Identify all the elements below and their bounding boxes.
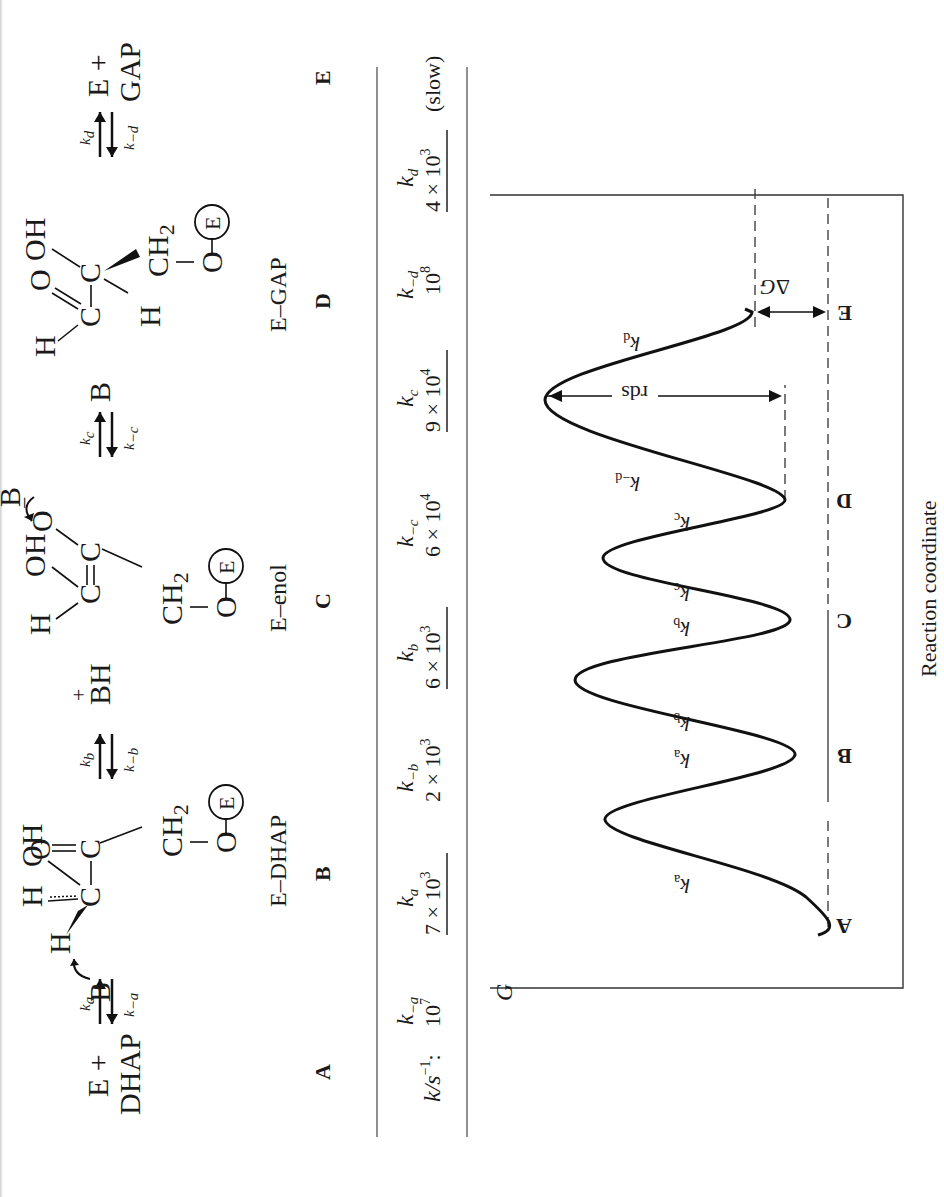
svg-text:9 × 104: 9 × 104: [418, 369, 445, 432]
wedge-bond: [66, 905, 88, 935]
svg-text:k−d: k−d: [615, 470, 640, 497]
arrow-head-icon: [94, 734, 106, 744]
curve-state-a: A: [836, 914, 852, 939]
atom-h: H: [23, 613, 56, 635]
equilibrium-arrow-d: kd k−d: [77, 112, 141, 157]
atom-o: O: [209, 596, 242, 618]
svg-text:k−a: k−a: [392, 997, 421, 1025]
curve-state-c: C: [836, 609, 852, 634]
atom-h: H: [133, 305, 166, 327]
atom-c: C: [73, 887, 106, 907]
svg-text:4 × 103: 4 × 103: [418, 149, 445, 212]
arrow-head-icon: [94, 412, 106, 422]
base-b: B: [83, 982, 116, 1002]
wedge-bond: [104, 249, 140, 271]
enzyme-label: E: [214, 797, 239, 810]
svg-text:k−d: k−d: [121, 125, 141, 150]
base-b: B: [83, 382, 116, 402]
energy-diagram: G Reaction coordinate rds: [490, 187, 941, 1001]
svg-text:kd: kd: [392, 168, 421, 187]
rate-table: k/s−1: k−a 107 ka 7 × 103 k−b 2 × 103: [392, 56, 447, 1102]
rate-entry-k-minus-d: k−d 108: [392, 266, 445, 299]
arrow-up-icon: [757, 306, 770, 318]
arrow-head-icon: [106, 147, 118, 157]
rate-entry-k-d: kd 4 × 103: [392, 130, 447, 212]
curve-labels: ka ka kb kb kc kc k−d kd: [615, 330, 690, 899]
svg-text:108: 108: [418, 266, 445, 295]
intermediate-c-name: E–enol: [265, 564, 291, 632]
product-line1: E +: [81, 54, 114, 97]
svg-text:7 × 103: 7 × 103: [418, 872, 445, 935]
slow-note: (slow): [420, 56, 445, 112]
svg-text:ka: ka: [673, 872, 690, 899]
svg-text:k−b: k−b: [121, 747, 141, 772]
rds-label: rds: [621, 381, 648, 406]
equilibrium-arrow-b: kb k−b: [77, 734, 141, 779]
svg-text:ka: ka: [392, 889, 421, 907]
curve-state-b: B: [837, 744, 852, 769]
y-axis-label: G: [491, 984, 517, 1001]
svg-text:CH2: CH2: [141, 224, 179, 277]
equilibrium-arrow-c: kc k−c: [77, 412, 141, 457]
state-label-d: D: [310, 293, 335, 309]
rate-entry-k-minus-a: k−a 107: [392, 997, 445, 1027]
arrow-down-icon: [769, 390, 782, 402]
rate-entry-k-minus-b: k−b 2 × 103: [392, 739, 445, 802]
svg-text:k−b: k−b: [392, 763, 421, 792]
atom-c: C: [73, 307, 106, 327]
enzyme-label: E: [200, 217, 225, 230]
svg-text:107: 107: [418, 998, 445, 1027]
atom-oh: OH: [18, 534, 51, 577]
state-label-b: B: [310, 866, 335, 881]
product-e-gap: E + GAP E: [81, 42, 335, 102]
figure-page: E + DHAP ka k−a B H H OH C: [0, 0, 944, 1197]
state-label-c: C: [310, 593, 335, 609]
svg-text:kc: kc: [674, 510, 690, 537]
arrow-head-icon: [106, 1014, 118, 1024]
reactant-line2: DHAP: [113, 1033, 146, 1115]
svg-text:CH2: CH2: [155, 804, 193, 857]
atom-h: H: [15, 885, 48, 907]
svg-text:k−a: k−a: [121, 993, 141, 1017]
svg-text:6 × 103: 6 × 103: [418, 626, 445, 689]
svg-text:CH2: CH2: [155, 572, 193, 625]
svg-text:6 × 104: 6 × 104: [418, 494, 445, 557]
rate-entry-k-b: kb 6 × 103: [392, 607, 447, 689]
reactant-line1: E +: [81, 1054, 114, 1097]
reactant-e-dhap: E + DHAP: [81, 1033, 146, 1115]
product-line2: GAP: [113, 42, 146, 102]
enzyme-label: E: [214, 561, 239, 574]
curve-state-e: E: [837, 301, 852, 326]
intermediate-b-name: E–DHAP: [265, 815, 291, 907]
svg-text:k−c: k−c: [392, 519, 421, 547]
x-axis-label: Reaction coordinate: [916, 500, 941, 677]
atom-o-minus: O: [25, 510, 58, 532]
svg-text:kd: kd: [623, 330, 640, 357]
atom-h: H: [28, 335, 61, 357]
svg-text:kc: kc: [392, 389, 421, 407]
atom-o: O: [23, 838, 56, 860]
delta-g-label: ΔG: [760, 275, 790, 300]
arrow-down-icon: [813, 306, 826, 318]
state-label-e: E: [310, 70, 335, 85]
atom-o: O: [23, 269, 56, 291]
arrow-head-icon: [106, 769, 118, 779]
svg-text:kc: kc: [674, 580, 690, 607]
rotated-figure: E + DHAP ka k−a B H H OH C: [0, 0, 944, 1197]
svg-text:2 × 103: 2 × 103: [418, 739, 445, 802]
molecule-e-gap: B H C O C OH H CH2 O E E–GAP: [18, 205, 335, 402]
rate-entry-k-minus-c: k−c 6 × 104: [392, 494, 445, 557]
figure-svg: E + DHAP ka k−a B H H OH C: [0, 0, 944, 1197]
atom-h: H: [43, 932, 76, 954]
rate-unit-label: k/s−1:: [418, 1054, 445, 1102]
curve-state-d: D: [836, 489, 852, 514]
charge-minus: −: [12, 497, 37, 509]
svg-text:kd: kd: [77, 130, 97, 145]
svg-text:kb: kb: [673, 710, 690, 737]
atom-oh: OH: [18, 218, 51, 261]
rate-entry-k-c: kc 9 × 104: [392, 350, 447, 432]
svg-text:ka: ka: [673, 747, 690, 774]
svg-text:kb: kb: [673, 615, 690, 642]
rate-entry-k-a: ka 7 × 103: [392, 853, 447, 935]
arrow-head-icon: [94, 112, 106, 122]
